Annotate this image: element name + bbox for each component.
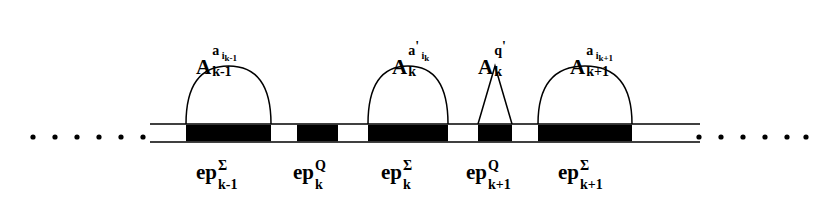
label-A-k-1-base: A bbox=[196, 55, 211, 79]
label-ep-q-k-superscript: Q bbox=[315, 158, 326, 174]
right-ellipsis-dot-3 bbox=[762, 134, 767, 139]
label-A-k-base: A bbox=[392, 55, 407, 79]
label-ep-sigma-k+1-base: ep bbox=[558, 160, 579, 184]
right-ellipsis-dot-4 bbox=[784, 134, 789, 139]
label-A-k: Aa' ikk bbox=[392, 57, 407, 78]
label-A-k-1-superscript: a ik-1 bbox=[212, 44, 237, 58]
label-ep-sigma-k+1-superscript: Σ bbox=[580, 158, 589, 174]
right-ellipsis-dot-0 bbox=[696, 134, 701, 139]
diagram-canvas: Aa ik-1k-1Aa' ikkAq'kAa ik+1k+1 epΣk-1ep… bbox=[0, 0, 816, 200]
label-ep-q-k+1-base: ep bbox=[466, 160, 487, 184]
label-ep-sigma-k+1: epΣk+1 bbox=[558, 160, 579, 185]
label-A-k-q-prime-base: A bbox=[478, 55, 493, 79]
left-ellipsis-dot-4 bbox=[118, 134, 123, 139]
label-A-k-q-prime: Aq'k bbox=[478, 57, 493, 78]
block-epoch-sigma-k bbox=[368, 125, 448, 141]
ellipsis-left-group bbox=[30, 134, 145, 139]
label-ep-sigma-k-1-subscript: k-1 bbox=[218, 177, 237, 193]
left-ellipsis-dot-5 bbox=[140, 134, 145, 139]
label-ep-sigma-k-superscript: Σ bbox=[403, 158, 412, 174]
label-ep-q-k-subscript: k bbox=[315, 177, 323, 193]
blocks-group bbox=[186, 125, 632, 141]
label-A-k+1-base: A bbox=[570, 55, 585, 79]
label-ep-sigma-k-1: epΣk-1 bbox=[196, 160, 217, 185]
block-epoch-q-k bbox=[297, 125, 338, 141]
label-A-k+1-superscript: a ik+1 bbox=[586, 44, 613, 58]
left-ellipsis-dot-3 bbox=[96, 134, 101, 139]
label-A-k-subscript: k bbox=[408, 65, 416, 79]
label-ep-sigma-k-1-base: ep bbox=[196, 160, 217, 184]
left-ellipsis-dot-0 bbox=[30, 134, 35, 139]
label-A-k-1-subscript: k-1 bbox=[212, 65, 231, 79]
label-A-k+1-subscript: k+1 bbox=[586, 65, 609, 79]
label-A-k-q-prime-superscript: q' bbox=[494, 44, 506, 58]
right-ellipsis-dot-5 bbox=[803, 134, 808, 139]
label-A-k-q-prime-subscript: k bbox=[494, 65, 502, 79]
block-epoch-sigma-k-1 bbox=[186, 125, 271, 141]
ellipsis-right-group bbox=[696, 134, 808, 139]
label-ep-q-k: epQk bbox=[293, 160, 314, 185]
label-ep-q-k-base: ep bbox=[293, 160, 314, 184]
label-ep-sigma-k-subscript: k bbox=[403, 177, 411, 193]
label-ep-sigma-k+1-subscript: k+1 bbox=[580, 177, 603, 193]
label-A-k+1: Aa ik+1k+1 bbox=[570, 57, 585, 78]
label-ep-sigma-k-base: ep bbox=[381, 160, 402, 184]
left-ellipsis-dot-1 bbox=[52, 134, 57, 139]
block-epoch-q-k+1 bbox=[478, 125, 512, 141]
left-ellipsis-dot-2 bbox=[74, 134, 79, 139]
block-epoch-sigma-k+1 bbox=[538, 125, 632, 141]
label-A-k-1: Aa ik-1k-1 bbox=[196, 57, 211, 78]
right-ellipsis-dot-1 bbox=[718, 134, 723, 139]
right-ellipsis-dot-2 bbox=[740, 134, 745, 139]
label-ep-q-k+1-subscript: k+1 bbox=[488, 177, 511, 193]
label-ep-q-k+1: epQk+1 bbox=[466, 160, 487, 185]
label-ep-q-k+1-superscript: Q bbox=[488, 158, 499, 174]
label-A-k-superscript: a' ik bbox=[408, 44, 429, 58]
label-ep-sigma-k-1-superscript: Σ bbox=[218, 158, 227, 174]
label-ep-sigma-k: epΣk bbox=[381, 160, 402, 185]
